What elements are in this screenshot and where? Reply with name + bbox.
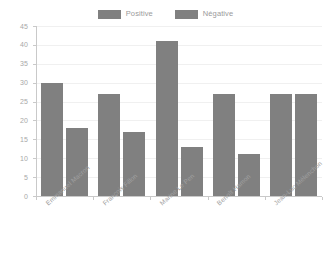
x-tick-mark [322, 197, 323, 200]
y-axis-tick-label: 10 [10, 155, 28, 162]
x-tick-mark [36, 197, 37, 200]
y-axis-tick-label: 0 [10, 193, 28, 200]
x-tick-mark [93, 197, 94, 200]
bar-chart: Positive Négative 051015202530354045Emma… [0, 0, 331, 258]
y-gridline [36, 83, 322, 84]
y-gridline [36, 45, 322, 46]
y-axis-tick-label: 25 [10, 98, 28, 105]
y-axis-tick-label: 5 [10, 174, 28, 181]
bar-positive[interactable] [213, 94, 235, 196]
y-axis-tick-label: 40 [10, 41, 28, 48]
y-axis-tick-label: 15 [10, 136, 28, 143]
y-gridline [36, 64, 322, 65]
bar-positive[interactable] [98, 94, 120, 196]
bar-positive[interactable] [41, 83, 63, 196]
plot-area: 051015202530354045Emmanuel MacronFrançoi… [0, 0, 331, 258]
y-axis-tick-label: 45 [10, 23, 28, 30]
y-axis-line [36, 26, 37, 197]
y-axis-tick-label: 35 [10, 60, 28, 67]
y-axis-tick-label: 20 [10, 117, 28, 124]
bar-positive[interactable] [156, 41, 178, 196]
y-gridline [36, 26, 322, 27]
x-tick-mark [208, 197, 209, 200]
x-tick-mark [150, 197, 151, 200]
y-axis-tick-label: 30 [10, 79, 28, 86]
x-tick-mark [265, 197, 266, 200]
bar-positive[interactable] [270, 94, 292, 196]
